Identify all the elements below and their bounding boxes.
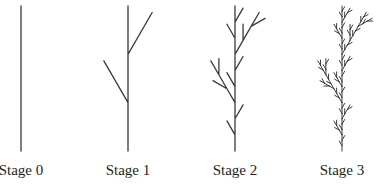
plant-branches xyxy=(211,6,265,151)
stage-1-plant xyxy=(104,6,152,151)
stage-1-label: Stage 1 xyxy=(88,161,168,179)
stage-3-label: Stage 3 xyxy=(302,161,381,179)
stage-0-label: Stage 0 xyxy=(0,161,61,179)
plant-branches xyxy=(318,6,373,151)
stage-2-label: Stage 2 xyxy=(195,161,275,179)
l-system-figure xyxy=(0,0,381,184)
plant-branches xyxy=(104,6,152,151)
stage-2-plant xyxy=(211,6,265,151)
stage-3-plant xyxy=(318,6,373,151)
